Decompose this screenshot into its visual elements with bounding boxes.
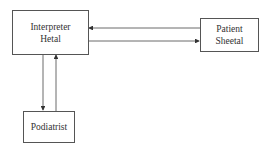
patient-label-line1: Patient	[216, 23, 242, 35]
podiatrist-node: Podiatrist	[23, 111, 75, 143]
interpreter-label-line1: Interpreter	[30, 21, 70, 33]
podiatrist-label: Podiatrist	[31, 121, 67, 133]
interpreter-node: Interpreter Hetal	[12, 10, 89, 55]
patient-label-line2: Sheetal	[216, 35, 244, 47]
interpreter-label-line2: Hetal	[40, 33, 61, 45]
patient-node: Patient Sheetal	[200, 18, 259, 52]
